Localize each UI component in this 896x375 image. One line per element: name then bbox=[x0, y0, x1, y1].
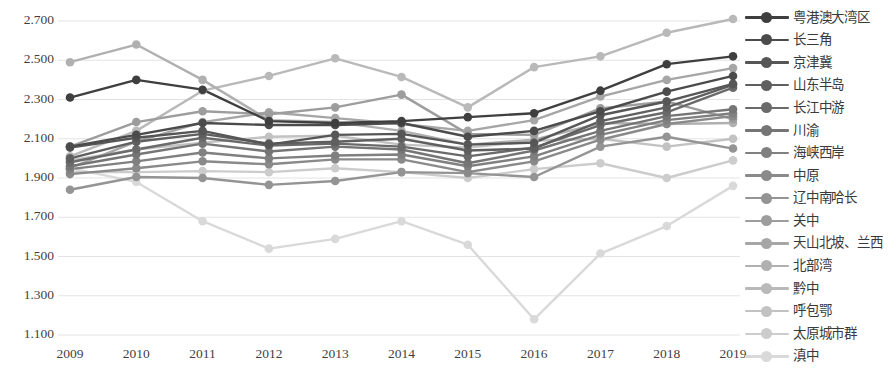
series-marker bbox=[596, 52, 605, 61]
series-marker bbox=[464, 103, 473, 112]
series-marker bbox=[464, 132, 473, 141]
legend-item-label: 长三角 bbox=[793, 33, 831, 47]
legend-item-label: 呼包鄂 bbox=[793, 304, 831, 318]
x-axis-tick-label: 2017 bbox=[570, 346, 630, 362]
x-axis-tick-label: 2016 bbox=[504, 346, 564, 362]
series-marker bbox=[265, 140, 274, 149]
series-marker bbox=[198, 127, 207, 136]
y-axis-tick-label: 1.300 bbox=[2, 287, 54, 303]
series-marker bbox=[662, 60, 671, 69]
legend-marker-icon bbox=[745, 259, 789, 273]
legend-marker-icon bbox=[745, 33, 789, 47]
legend-item[interactable]: 黔中 bbox=[745, 277, 896, 300]
series-marker bbox=[331, 54, 340, 63]
legend-item-label: 长江中游 bbox=[793, 101, 844, 115]
series-marker bbox=[530, 165, 539, 174]
x-axis-tick-label: 2014 bbox=[372, 346, 432, 362]
series-marker bbox=[596, 249, 605, 258]
series-marker bbox=[464, 140, 473, 149]
legend-item-label: 滇中 bbox=[793, 349, 819, 363]
series-marker bbox=[198, 148, 207, 157]
legend-dot-swatch bbox=[761, 328, 772, 339]
legend-item[interactable]: 长三角 bbox=[745, 29, 896, 52]
legend-dot-swatch bbox=[761, 193, 772, 204]
legend-dot-swatch bbox=[761, 170, 772, 181]
legend-item[interactable]: 北部湾 bbox=[745, 255, 896, 278]
legend-dot-swatch bbox=[761, 260, 772, 271]
series-marker bbox=[596, 107, 605, 116]
x-axis-tick-label: 2011 bbox=[173, 346, 233, 362]
series-marker bbox=[662, 87, 671, 96]
series-marker bbox=[265, 72, 274, 81]
series-marker bbox=[397, 73, 406, 82]
series-marker bbox=[464, 240, 473, 249]
series-marker bbox=[66, 154, 75, 163]
legend-dot-swatch bbox=[761, 57, 772, 68]
legend-marker-icon bbox=[745, 236, 789, 250]
y-axis-tick-label: 2.300 bbox=[2, 91, 54, 107]
series-marker bbox=[729, 80, 738, 89]
legend-item[interactable]: 天山北坡、兰西 bbox=[745, 232, 896, 255]
y-axis-tick-label: 1.500 bbox=[2, 248, 54, 264]
y-axis-tick-label: 2.700 bbox=[2, 12, 54, 28]
y-axis-tick-label: 1.700 bbox=[2, 208, 54, 224]
legend-item[interactable]: 长江中游 bbox=[745, 96, 896, 119]
legend-item[interactable]: 辽中南哈长 bbox=[745, 187, 896, 210]
series-marker bbox=[530, 138, 539, 147]
legend-item[interactable]: 太原城市群 bbox=[745, 322, 896, 345]
series-marker bbox=[198, 76, 207, 85]
legend-dot-swatch bbox=[761, 125, 772, 136]
legend-marker-icon bbox=[745, 327, 789, 341]
series-marker bbox=[265, 244, 274, 253]
legend-item-label: 天山北坡、兰西 bbox=[793, 236, 883, 250]
legend-marker-icon bbox=[745, 146, 789, 160]
y-axis-tick-label: 2.100 bbox=[2, 130, 54, 146]
legend-item-label: 太原城市群 bbox=[793, 327, 857, 341]
legend-dot-swatch bbox=[761, 283, 772, 294]
series-marker bbox=[331, 151, 340, 160]
legend-item-label: 黔中 bbox=[793, 282, 819, 296]
legend-item[interactable]: 中原 bbox=[745, 164, 896, 187]
x-axis-tick-label: 2010 bbox=[106, 346, 166, 362]
series-marker bbox=[729, 52, 738, 61]
legend-item[interactable]: 粤港澳大湾区 bbox=[745, 6, 896, 29]
legend-marker-icon bbox=[745, 168, 789, 182]
series-marker bbox=[729, 72, 738, 81]
series-marker bbox=[397, 117, 406, 126]
legend-marker-icon bbox=[745, 214, 789, 228]
y-axis-tick-label: 1.100 bbox=[2, 326, 54, 342]
legend-item[interactable]: 滇中 bbox=[745, 345, 896, 368]
legend-marker-icon bbox=[745, 191, 789, 205]
legend-item-label: 川渝 bbox=[793, 124, 819, 138]
series-marker bbox=[530, 109, 539, 118]
legend-dot-swatch bbox=[761, 306, 772, 317]
legend-item[interactable]: 京津冀 bbox=[745, 51, 896, 74]
series-marker bbox=[265, 168, 274, 177]
series-marker bbox=[132, 131, 141, 140]
series-marker bbox=[132, 118, 141, 127]
x-axis-tick-label: 2013 bbox=[305, 346, 365, 362]
series-marker bbox=[530, 173, 539, 182]
x-axis-tick-label: 2015 bbox=[438, 346, 498, 362]
legend-dot-swatch bbox=[761, 147, 772, 158]
legend-item[interactable]: 呼包鄂 bbox=[745, 300, 896, 323]
chart-canvas bbox=[0, 0, 740, 375]
legend-item[interactable]: 海峡西岸 bbox=[745, 142, 896, 165]
series-marker bbox=[397, 130, 406, 139]
series-marker bbox=[662, 142, 671, 151]
legend-item-label: 关中 bbox=[793, 214, 819, 228]
legend-item[interactable]: 川渝 bbox=[745, 119, 896, 142]
series-marker bbox=[662, 28, 671, 37]
series-marker bbox=[530, 315, 539, 324]
legend-marker-icon bbox=[745, 55, 789, 69]
series-marker bbox=[397, 142, 406, 151]
chart-legend: 粤港澳大湾区长三角京津冀山东半岛长江中游川渝海峡西岸中原辽中南哈长关中天山北坡、… bbox=[745, 6, 896, 375]
series-marker bbox=[596, 86, 605, 95]
y-axis-tick-label: 2.500 bbox=[2, 51, 54, 67]
line-chart-plot-area: 2.7002.5002.3002.1001.9001.7001.5001.300… bbox=[0, 0, 740, 375]
legend-item[interactable]: 关中 bbox=[745, 209, 896, 232]
legend-item[interactable]: 山东半岛 bbox=[745, 74, 896, 97]
series-marker bbox=[530, 127, 539, 136]
legend-marker-icon bbox=[745, 78, 789, 92]
x-axis-tick-label: 2012 bbox=[239, 346, 299, 362]
